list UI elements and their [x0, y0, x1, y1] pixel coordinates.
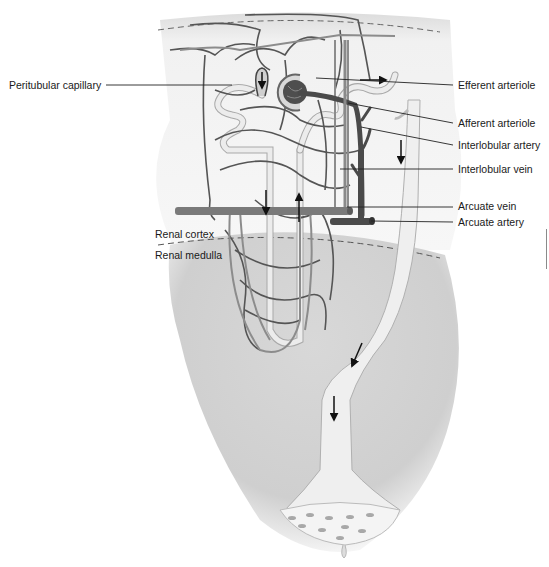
label-arcuate-artery: Arcuate artery [458, 216, 524, 228]
label-renal-medulla: Renal medulla [155, 249, 222, 261]
nephron-vasculature-diagram: Peritubular capillary Efferent arteriole… [0, 0, 549, 567]
label-interlobular-vein: Interlobular vein [458, 163, 533, 175]
label-efferent-arteriole: Efferent arteriole [458, 79, 535, 91]
edge-divider [546, 229, 547, 269]
label-renal-cortex: Renal cortex [155, 228, 214, 240]
arcuate-vein-vessel [175, 207, 353, 215]
label-interlobular-artery: Interlobular artery [458, 139, 540, 151]
label-peritubular-capillary: Peritubular capillary [9, 79, 101, 91]
label-afferent-arteriole: Afferent arteriole [458, 117, 535, 129]
label-arcuate-vein: Arcuate vein [458, 200, 516, 212]
